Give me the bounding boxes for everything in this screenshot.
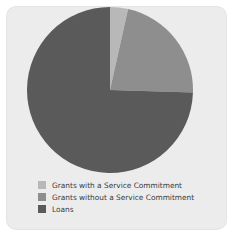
pie-chart-plot-area <box>26 6 194 174</box>
chart-legend: Grants with a Service Commitment Grants … <box>38 179 218 215</box>
legend-swatch-grants-without-service-commitment <box>38 193 46 201</box>
pie-chart-figure: Grants with a Service Commitment Grants … <box>0 0 233 236</box>
legend-label-grants-with-service-commitment: Grants with a Service Commitment <box>52 181 182 190</box>
legend-swatch-loans <box>38 205 46 213</box>
pie-chart-svg <box>26 6 194 174</box>
legend-item-grants-without-service-commitment[interactable]: Grants without a Service Commitment <box>38 191 218 203</box>
legend-swatch-grants-with-service-commitment <box>38 181 46 189</box>
legend-label-loans: Loans <box>52 205 74 214</box>
legend-item-grants-with-service-commitment[interactable]: Grants with a Service Commitment <box>38 179 218 191</box>
legend-label-grants-without-service-commitment: Grants without a Service Commitment <box>52 193 194 202</box>
legend-item-loans[interactable]: Loans <box>38 203 218 215</box>
pie-slice-group <box>27 7 193 173</box>
